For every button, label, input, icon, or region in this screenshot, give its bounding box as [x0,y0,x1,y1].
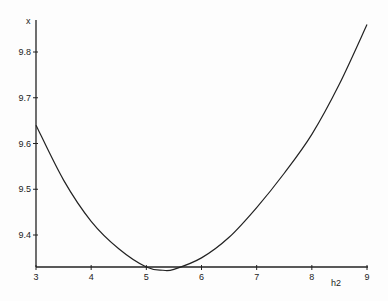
y-axis: 9.49.59.69.79.8 [18,20,38,267]
y-tick-label: 9.6 [18,139,31,149]
x-tick-label: 6 [199,272,204,282]
x-axis-label: h2 [331,278,341,288]
x-tick-label: 4 [89,272,94,282]
data-line [36,25,367,271]
x-axis: 3456789 [33,265,369,282]
x-tick-label: 3 [33,272,38,282]
y-tick-label: 9.8 [18,47,31,57]
x-tick-label: 9 [364,272,369,282]
y-tick-label: 9.7 [18,93,31,103]
y-axis-label: x [26,16,31,26]
x-tick-label: 5 [144,272,149,282]
x-tick-label: 8 [309,272,314,282]
y-tick-label: 9.5 [18,184,31,194]
chart-svg: 9.49.59.69.79.8 3456789 x h2 [0,0,388,301]
x-tick-label: 7 [254,272,259,282]
line-chart: 9.49.59.69.79.8 3456789 x h2 [0,0,388,301]
y-tick-label: 9.4 [18,230,31,240]
